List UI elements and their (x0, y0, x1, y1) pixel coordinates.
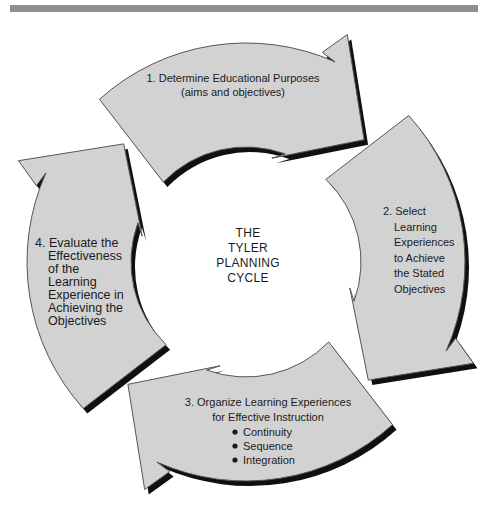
step-2-label-line-2: Learning (394, 221, 437, 233)
arrow-step-1-shape (100, 35, 365, 183)
center-label-line-1: THE (236, 226, 261, 240)
center-label-line-2: TYLER (228, 241, 268, 255)
step-4-label-line-4: Learning (48, 275, 97, 289)
step-4-label-line-3: of the (48, 262, 79, 276)
step-2-label-line-1: 2. Select (383, 205, 426, 217)
step-3-bullet-3: Integration (243, 454, 295, 466)
step-4-label-line-1: 4. Evaluate the (35, 236, 118, 250)
bullet-icon (232, 457, 237, 462)
step-4-label-line-2: Effectiveness (48, 249, 122, 263)
step-4-label-line-6: Achieving the (48, 301, 123, 315)
bullet-icon (232, 443, 237, 448)
step-3-label-line-2: for Effective Instruction (212, 411, 324, 423)
step-1-label-line-1: 1. Determine Educational Purposes (146, 72, 320, 84)
step-4-label-line-5: Experience in (48, 288, 124, 302)
center-label: THE TYLER PLANNING CYCLE (216, 226, 280, 285)
step-2-label-line-5: the Stated (394, 267, 444, 279)
step-1-label-line-2: (aims and objectives) (181, 86, 285, 98)
center-label-line-3: PLANNING (216, 256, 280, 270)
tyler-cycle-diagram: 1. Determine Educational Purposes (aims … (0, 0, 499, 508)
center-label-line-4: CYCLE (227, 271, 269, 285)
step-3-bullet-1: Continuity (243, 426, 292, 438)
arrow-step-1: 1. Determine Educational Purposes (aims … (100, 35, 365, 183)
step-2-label-line-4: to Achieve (394, 252, 445, 264)
step-4-label-line-7: Objectives (48, 314, 106, 328)
tyler-planning-cycle-figure: 1. Determine Educational Purposes (aims … (0, 0, 499, 508)
bullet-icon (232, 429, 237, 434)
top-rule-bar (10, 5, 478, 12)
step-2-label-line-6: Objectives (394, 283, 446, 295)
step-2-label-line-3: Experiences (394, 236, 455, 248)
step-3-label-line-1: 3. Organize Learning Experiences (185, 396, 352, 408)
step-3-bullet-2: Sequence (243, 440, 293, 452)
